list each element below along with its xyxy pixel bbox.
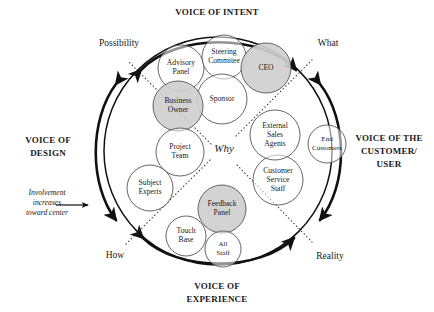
node-sponsor[interactable]: Sponsor [197, 74, 247, 124]
node-steering-commitee[interactable]: SteeringCommitee [202, 35, 246, 79]
node-label-touch-base: Base [179, 235, 194, 244]
node-label-steering-commitee: Steering [211, 47, 237, 56]
node-label-feedback-panel: Feedback [207, 199, 236, 208]
node-label-advisory-panel: Panel [173, 67, 190, 76]
node-label-sponsor: Sponsor [210, 94, 235, 103]
node-label-subject-experts: Experts [138, 187, 161, 196]
node-group: AdvisoryPanelSteeringCommiteeCEOSponsorB… [127, 35, 346, 267]
node-label-business-owner: Owner [168, 105, 189, 114]
node-label-customer-service-staff: Staff [271, 184, 286, 193]
title-voice-of-experience-line1: VOICE OF [194, 281, 240, 291]
arrow-voice-of-design [96, 84, 116, 220]
node-label-ceo: CEO [258, 63, 274, 72]
title-voice-of-experience-line2: EXPERIENCE [186, 294, 247, 304]
node-label-advisory-panel: Advisory [167, 58, 195, 67]
title-voice-of-design-line1: VOICE OF [25, 135, 71, 145]
title-voice-of-intent: VOICE OF INTENT [175, 7, 259, 17]
axis-label-what: What [318, 38, 339, 48]
node-label-project-team: Team [172, 151, 189, 160]
node-label-business-owner: Business [164, 96, 191, 105]
title-voice-of-design-line2: DESIGN [30, 148, 66, 158]
node-customer-service-staff[interactable]: CustomerServiceStaff [253, 155, 303, 205]
node-label-customer-service-staff: Service [267, 175, 290, 184]
node-label-end-customers: Customers [312, 144, 342, 152]
axis-label-reality: Reality [316, 251, 344, 261]
node-label-end-customers: End [321, 135, 333, 143]
node-label-all-staff: Staff [216, 249, 230, 257]
node-subject-experts[interactable]: SubjectExperts [127, 165, 173, 211]
node-label-customer-service-staff: Customer [263, 166, 293, 175]
node-label-steering-commitee: Commitee [208, 56, 240, 65]
node-ceo[interactable]: CEO [241, 43, 291, 93]
involvement-note-line3: toward center [26, 208, 68, 217]
title-voice-of-customer-line2: CUSTOMER/ [361, 146, 417, 156]
axis-label-how: How [106, 250, 125, 260]
node-label-subject-experts: Subject [139, 178, 163, 187]
node-end-customers[interactable]: EndCustomers [308, 125, 346, 163]
node-label-feedback-panel: Panel [214, 208, 231, 217]
node-label-touch-base: Touch [177, 226, 196, 235]
center-label-why: Why [214, 142, 234, 154]
node-label-all-staff: All [219, 240, 228, 248]
node-feedback-panel[interactable]: FeedbackPanel [198, 185, 246, 233]
node-external-sales-agents[interactable]: ExternalSalesAgents [250, 110, 300, 160]
axis-label-possibility: Possibility [99, 38, 139, 48]
title-voice-of-customer-line1: VOICE OF THE [355, 133, 422, 143]
title-voice-of-customer-line3: USER [377, 159, 402, 169]
node-label-external-sales-agents: Sales [267, 130, 283, 139]
node-business-owner[interactable]: BusinessOwner [153, 81, 203, 131]
voice-of-intent-diagram: AdvisoryPanelSteeringCommiteeCEOSponsorB… [0, 0, 434, 312]
node-label-external-sales-agents: Agents [264, 139, 286, 148]
involvement-note-line2: increases [33, 198, 61, 207]
node-all-staff[interactable]: AllStaff [205, 231, 241, 267]
node-label-project-team: Project [169, 142, 191, 151]
node-label-external-sales-agents: External [262, 121, 288, 130]
node-touch-base[interactable]: TouchBase [166, 216, 206, 256]
involvement-note-line1: Involvement [27, 188, 66, 197]
